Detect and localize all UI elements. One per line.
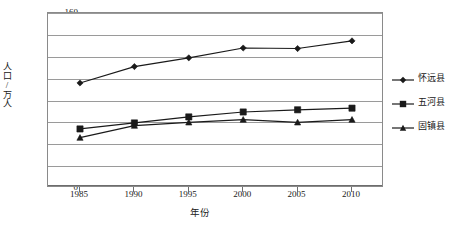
series-layer [48,13,384,188]
x-axis-tick-mark [351,187,352,192]
legend-marker-icon [392,72,414,84]
x-axis-tick-mark [242,187,243,192]
data-series [77,38,355,86]
legend-item[interactable]: 怀远县 [392,66,464,90]
data-point-marker [349,38,355,44]
x-axis-tick-mark [188,187,189,192]
data-point-marker [349,105,355,111]
plot-area [47,12,383,187]
data-point-marker [240,109,246,115]
data-point-marker [77,80,83,86]
data-point-marker [77,126,83,132]
x-axis-tick-mark [79,187,80,192]
chart-legend: 怀远县五河县固镇县 [392,66,464,138]
data-point-marker [295,45,301,51]
legend-item-label: 五河县 [418,98,445,107]
series-line [80,120,352,138]
data-series [77,117,355,141]
legend-item-label: 固镇县 [418,122,445,131]
data-point-marker [295,107,301,113]
legend-item-label: 怀远县 [418,74,445,83]
data-series [77,105,355,132]
x-axis-title: 年份 [0,205,400,219]
legend-marker-icon [392,120,414,132]
legend-item[interactable]: 固镇县 [392,114,464,138]
line-chart: 人口/万人 020406080100120140160 198519901995… [0,0,464,226]
data-point-marker [131,63,137,69]
x-axis-tick-mark [133,187,134,192]
series-line [80,108,352,129]
y-axis-title: 人口/万人 [0,62,12,108]
legend-item[interactable]: 五河县 [392,90,464,114]
data-point-marker [186,55,192,61]
x-axis-tick-mark [297,187,298,192]
data-point-marker [240,45,246,51]
series-line [80,41,352,83]
legend-marker-icon [392,96,414,108]
